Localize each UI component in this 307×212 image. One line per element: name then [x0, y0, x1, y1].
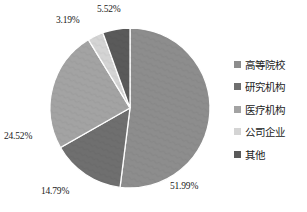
legend-swatch-icon [234, 128, 241, 135]
legend-item-other[interactable]: 其他 [234, 143, 307, 166]
slice-label-medical-institutions: 24.52% [4, 131, 32, 141]
slice-label-research-institutions: 14.79% [41, 186, 69, 196]
legend-swatch-icon [234, 106, 241, 113]
legend-item-medical-institutions[interactable]: 医疗机构 [234, 98, 307, 121]
legend-item-research-institutions[interactable]: 研究机构 [234, 76, 307, 99]
pie-chart: 51.99% 14.79% 24.52% 3.19% 5.52% 高等院校 研究… [0, 0, 307, 212]
legend-item-label: 公司企业 [245, 124, 285, 139]
legend-item-companies[interactable]: 公司企业 [234, 121, 307, 144]
legend-item-label: 医疗机构 [245, 102, 285, 117]
legend-item-label: 其他 [245, 147, 265, 162]
pie-texture-overlay [50, 28, 210, 188]
legend-swatch-icon [234, 151, 241, 158]
chart-legend: 高等院校 研究机构 医疗机构 公司企业 其他 [234, 53, 307, 166]
slice-label-companies: 3.19% [56, 15, 80, 25]
slice-label-other: 5.52% [97, 4, 121, 14]
legend-item-higher-education[interactable]: 高等院校 [234, 53, 307, 76]
slice-label-higher-education: 51.99% [170, 181, 198, 191]
legend-swatch-icon [234, 83, 241, 90]
legend-item-label: 研究机构 [245, 79, 285, 94]
pie-plot-area: 51.99% 14.79% 24.52% 3.19% 5.52% [0, 0, 228, 212]
legend-item-label: 高等院校 [245, 57, 285, 72]
legend-swatch-icon [234, 61, 241, 68]
